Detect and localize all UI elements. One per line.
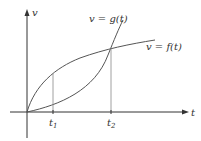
tick-label-t1: t1 bbox=[49, 117, 58, 130]
curve-g bbox=[27, 20, 123, 112]
t-axis-label: t bbox=[191, 107, 196, 118]
diagram-canvas: v t v = g(t) v = f(t) t1 t2 bbox=[0, 0, 201, 141]
curve-f-label: v = f(t) bbox=[146, 41, 182, 52]
curve-f bbox=[27, 40, 155, 112]
t-axis-arrow-icon bbox=[182, 110, 189, 115]
tick-label-t2: t2 bbox=[107, 117, 116, 130]
curve-g-label: v = g(t) bbox=[89, 13, 128, 24]
v-axis-arrow-icon bbox=[25, 9, 30, 16]
v-axis-label: v bbox=[32, 7, 38, 18]
